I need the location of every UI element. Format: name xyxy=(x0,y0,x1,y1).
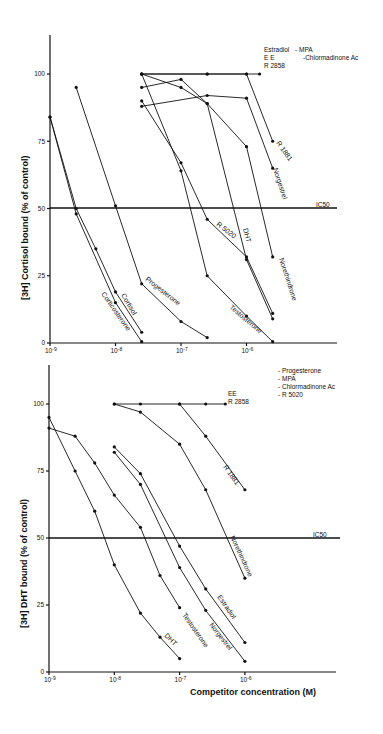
data-point xyxy=(243,660,246,663)
data-point xyxy=(243,577,246,580)
series-line xyxy=(114,452,245,661)
y-tick-label: 25 xyxy=(37,601,45,608)
data-point xyxy=(139,526,142,529)
data-point xyxy=(271,255,274,258)
dht-binding-chart: 025507510010-910-810-710-6 [3H] DHT boun… xyxy=(19,365,340,697)
data-point xyxy=(243,641,246,644)
data-point xyxy=(206,274,209,277)
bottom-legend-ee: EE xyxy=(228,390,237,397)
data-point xyxy=(204,402,207,405)
data-point xyxy=(158,636,161,639)
x-tick-label: 10-9 xyxy=(44,675,56,684)
data-point xyxy=(139,472,142,475)
series-line xyxy=(114,404,245,578)
data-point xyxy=(206,94,209,97)
label-norethindrone: Norethindrone xyxy=(278,257,298,301)
data-point xyxy=(114,204,117,207)
bottom-ic50-label: IC50 xyxy=(313,531,327,538)
x-tick-label: 10-6 xyxy=(242,346,254,355)
data-point xyxy=(113,451,116,454)
y-tick-label: 0 xyxy=(40,668,44,675)
data-point xyxy=(74,435,77,438)
data-point xyxy=(178,402,181,405)
data-point xyxy=(75,207,78,210)
data-point xyxy=(178,606,181,609)
data-point xyxy=(93,461,96,464)
data-point xyxy=(140,86,143,89)
data-point xyxy=(178,443,181,446)
data-point xyxy=(206,336,209,339)
data-point xyxy=(204,609,207,612)
label-norgestrel: Norgestrel xyxy=(271,167,289,201)
label-dht-bottom: DHT xyxy=(163,632,179,648)
bottom-x-axis-label: Competitor concentration (M) xyxy=(190,687,316,697)
data-point xyxy=(245,97,248,100)
cortisol-binding-chart: 025507510010-910-810-710-6 [3H] Cortisol… xyxy=(20,35,359,354)
series-line xyxy=(142,74,273,257)
y-tick-label: 0 xyxy=(41,339,45,346)
data-point xyxy=(179,78,182,81)
x-tick-label: 10-9 xyxy=(45,346,57,355)
data-point xyxy=(158,574,161,577)
data-point xyxy=(75,212,78,215)
label-testosterone-bottom: Testosterone xyxy=(181,612,210,649)
data-point xyxy=(140,340,143,343)
top-legend-mpa: - MPA xyxy=(295,46,313,53)
data-point xyxy=(140,282,143,285)
y-tick-label: 25 xyxy=(38,272,46,279)
x-tick-label: 10-7 xyxy=(176,346,188,355)
data-point xyxy=(139,402,142,405)
top-ticks: 025507510010-910-810-710-6 xyxy=(34,70,253,354)
label-r1881-bottom: R 1881 xyxy=(222,464,241,487)
data-point xyxy=(113,445,116,448)
data-point xyxy=(204,435,207,438)
series-line xyxy=(76,88,207,338)
y-tick-label: 50 xyxy=(38,205,46,212)
data-point xyxy=(204,488,207,491)
bottom-legend-r5020: - R 5020 xyxy=(278,391,303,398)
y-tick-label: 100 xyxy=(34,70,45,77)
data-point xyxy=(139,483,142,486)
data-point xyxy=(206,218,209,221)
data-point xyxy=(75,86,78,89)
data-point xyxy=(245,258,248,261)
data-point xyxy=(140,72,143,75)
x-tick-label: 10-8 xyxy=(109,675,121,684)
label-norgestrel-bottom: Norgestrel xyxy=(207,621,233,652)
bottom-legend-progesterone: - Progesterone xyxy=(278,367,321,375)
bottom-y-axis-label: [3H] DHT bound (% of control) xyxy=(19,499,29,628)
data-point xyxy=(179,169,182,172)
data-point xyxy=(271,317,274,320)
data-point xyxy=(179,161,182,164)
label-dht: DHT xyxy=(242,227,253,243)
top-legend-r2858: R 2858 xyxy=(264,62,285,69)
top-y-axis-label: [3H] Cortisol bound (% of control) xyxy=(20,156,30,300)
data-point xyxy=(94,247,97,250)
bottom-legend-r2858: R 2858 xyxy=(228,398,249,405)
data-point xyxy=(140,105,143,108)
data-point xyxy=(47,427,50,430)
data-point xyxy=(139,410,142,413)
data-point xyxy=(113,402,116,405)
data-point xyxy=(206,102,209,105)
data-point xyxy=(245,72,248,75)
data-point xyxy=(139,611,142,614)
label-r1881-top: R 1881 xyxy=(275,140,294,163)
series-line xyxy=(49,428,180,608)
x-tick-label: 10-8 xyxy=(111,346,123,355)
bottom-legend-chlormadinone: - Chlormadinone Ac xyxy=(278,383,336,390)
top-legend-ee: E E xyxy=(264,54,275,61)
top-ic50-label: IC50 xyxy=(316,201,330,208)
data-point xyxy=(179,86,182,89)
data-point xyxy=(47,416,50,419)
data-point xyxy=(140,99,143,102)
data-point xyxy=(258,72,261,75)
data-point xyxy=(243,488,246,491)
data-point xyxy=(245,145,248,148)
y-tick-label: 100 xyxy=(33,400,44,407)
data-point xyxy=(93,510,96,513)
y-tick-label: 75 xyxy=(38,138,46,145)
y-tick-label: 50 xyxy=(37,534,45,541)
bottom-ticks: 025507510010-910-810-710-6 xyxy=(33,400,252,683)
data-point xyxy=(271,312,274,315)
